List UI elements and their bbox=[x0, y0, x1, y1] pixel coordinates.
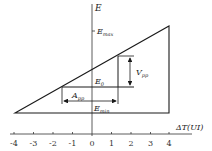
e-min-label: Emin bbox=[93, 104, 109, 114]
y-axis-label: E bbox=[94, 3, 102, 13]
svg-text:3: 3 bbox=[148, 139, 153, 148]
svg-text:0: 0 bbox=[89, 139, 94, 148]
vpp-label: Vpp bbox=[136, 68, 149, 79]
svg-text:-3: -3 bbox=[30, 139, 38, 148]
svg-text:1: 1 bbox=[109, 139, 114, 148]
x-tick-labels: -4 -3 -2 -1 0 1 2 3 4 bbox=[10, 139, 171, 148]
x-axis-label: ΔT(UI) bbox=[175, 123, 203, 132]
svg-text:-1: -1 bbox=[69, 139, 77, 148]
appp-label: App bbox=[71, 91, 85, 102]
e-max-label: Emax bbox=[96, 27, 114, 37]
diagram: E Emax E0 Emin Vpp App ΔT(UI) -4 -3 -2 -… bbox=[0, 0, 212, 151]
e0-label: E0 bbox=[94, 77, 105, 87]
svg-text:-2: -2 bbox=[49, 139, 57, 148]
svg-text:2: 2 bbox=[128, 139, 133, 148]
diagram-canvas: E Emax E0 Emin Vpp App ΔT(UI) -4 -3 -2 -… bbox=[0, 0, 212, 151]
svg-text:4: 4 bbox=[166, 139, 171, 148]
svg-text:-4: -4 bbox=[10, 139, 18, 148]
